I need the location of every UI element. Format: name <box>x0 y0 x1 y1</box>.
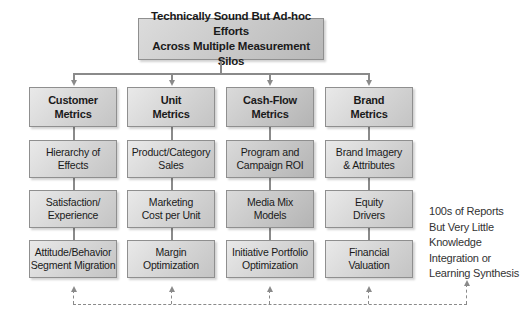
item-line1: Margin <box>143 246 199 259</box>
item-line1: Satisfaction/ <box>46 196 101 209</box>
arrow-up-icon <box>267 286 273 292</box>
connector-top-horizontal <box>73 73 369 75</box>
arrow-down-icon <box>366 80 372 86</box>
satisfaction-experience-box: Satisfaction/Experience <box>29 190 117 228</box>
knowledge-synthesis-note: 100s of Reports But Very Little Knowledg… <box>429 204 519 282</box>
item-line1: Hierarchy of <box>46 146 100 159</box>
unit-metrics-header: UnitMetrics <box>127 87 215 127</box>
item-line2: Cost per Unit <box>142 209 201 222</box>
item-line1: Equity <box>353 196 385 209</box>
item-line1: Program and <box>236 146 303 159</box>
product-category-sales-box: Product/CategorySales <box>127 140 215 178</box>
note-line: Learning Synthesis <box>429 266 519 282</box>
item-line1: Attitude/Behavior <box>31 246 116 259</box>
item-line1: Product/Category <box>132 146 211 159</box>
equity-drivers-box: EquityDrivers <box>325 190 413 228</box>
brand-imagery-box: Brand Imagery& Attributes <box>325 140 413 178</box>
media-mix-models-box: Media MixModels <box>226 190 314 228</box>
attitude-behavior-box: Attitude/BehaviorSegment Migration <box>29 240 117 278</box>
dashed-feedback-line <box>73 304 467 305</box>
dashed-riser-col2 <box>171 290 172 304</box>
note-line: Integration or <box>429 251 519 267</box>
top-title-line2: Across Multiple Measurement Silos <box>139 39 323 69</box>
item-line2: Experience <box>46 209 101 222</box>
item-line1: Media Mix <box>247 196 293 209</box>
header-line2: Metrics <box>243 107 297 121</box>
arrow-up-icon <box>366 286 372 292</box>
header-line2: Metrics <box>350 107 387 121</box>
dashed-riser-col1 <box>73 290 74 304</box>
item-line2: Valuation <box>348 259 389 272</box>
hierarchy-of-effects-box: Hierarchy ofEffects <box>29 140 117 178</box>
item-line1: Brand Imagery <box>336 146 402 159</box>
marketing-cost-box: MarketingCost per Unit <box>127 190 215 228</box>
item-line2: Drivers <box>353 209 385 222</box>
margin-optimization-box: MarginOptimization <box>127 240 215 278</box>
top-title-line1: Technically Sound But Ad-hoc Efforts <box>139 9 323 39</box>
item-line2: & Attributes <box>336 159 402 172</box>
program-campaign-roi-box: Program andCampaign ROI <box>226 140 314 178</box>
arrow-down-icon <box>71 80 77 86</box>
brand-metrics-header: BrandMetrics <box>325 87 413 127</box>
item-line2: Campaign ROI <box>236 159 303 172</box>
header-line1: Brand <box>350 93 387 107</box>
item-line1: Financial <box>348 246 389 259</box>
arrow-down-icon <box>169 80 175 86</box>
item-line2: Models <box>247 209 293 222</box>
item-line2: Optimization <box>143 259 199 272</box>
arrow-down-icon <box>267 80 273 86</box>
initiative-portfolio-box: Initiative PortfolioOptimization <box>226 240 314 278</box>
header-line1: Customer <box>48 93 98 107</box>
arrow-up-icon <box>464 280 470 286</box>
header-line2: Metrics <box>48 107 98 121</box>
dashed-riser-col4 <box>368 290 369 304</box>
item-line2: Effects <box>46 159 100 172</box>
note-line: Knowledge <box>429 235 519 251</box>
customer-metrics-header: CustomerMetrics <box>29 87 117 127</box>
header-line1: Cash-Flow <box>243 93 297 107</box>
header-line1: Unit <box>152 93 189 107</box>
item-line2: Segment Migration <box>31 259 116 272</box>
dashed-riser-note <box>466 284 467 304</box>
item-line2: Optimization <box>232 259 308 272</box>
arrow-up-icon <box>169 286 175 292</box>
item-line1: Marketing <box>142 196 201 209</box>
note-line: But Very Little <box>429 220 519 236</box>
note-line: 100s of Reports <box>429 204 519 220</box>
dashed-riser-col3 <box>269 290 270 304</box>
item-line2: Sales <box>132 159 211 172</box>
header-line2: Metrics <box>152 107 189 121</box>
financial-valuation-box: FinancialValuation <box>325 240 413 278</box>
arrow-up-icon <box>71 286 77 292</box>
cash-flow-metrics-header: Cash-FlowMetrics <box>226 87 314 127</box>
top-title-box: Technically Sound But Ad-hoc Efforts Acr… <box>138 18 324 60</box>
item-line1: Initiative Portfolio <box>232 246 308 259</box>
